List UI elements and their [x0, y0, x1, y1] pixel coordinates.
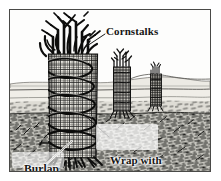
illustration-canvas: Cornstalks Wrap with heavy twine Burlap [0, 0, 221, 181]
illustration-frame: Cornstalks Wrap with heavy twine Burlap [9, 9, 211, 172]
main-wrapped-shrub [40, 12, 102, 170]
label-wrap-line-1: Wrap with [110, 155, 167, 166]
label-wrap-with-heavy-twine: Wrap with heavy twine [110, 132, 167, 172]
label-burlap: Burlap [24, 164, 59, 172]
label-cornstalks: Cornstalks [106, 26, 158, 37]
